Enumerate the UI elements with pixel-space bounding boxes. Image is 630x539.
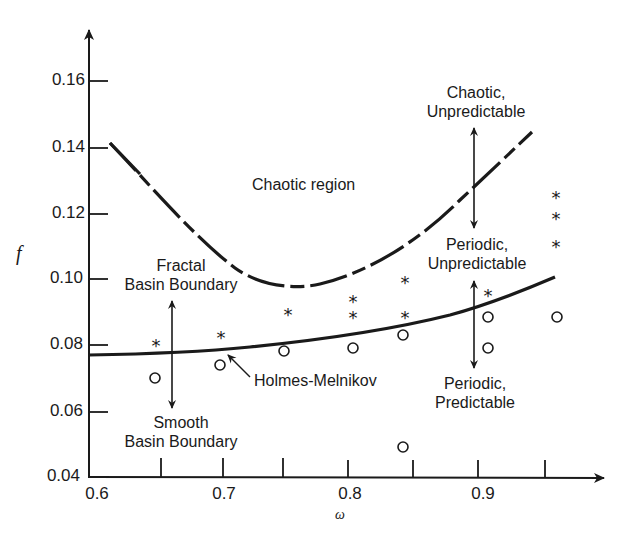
annotation-line: Periodic,: [426, 374, 524, 393]
x-tick-label: 0.6: [77, 484, 117, 504]
svg-text:*: *: [284, 304, 293, 325]
y-tick-label: 0.08: [23, 334, 83, 354]
x-axis-label: ω: [335, 507, 345, 523]
y-axis: [89, 30, 108, 478]
annotation-line: Smooth: [115, 413, 247, 432]
svg-text:*: *: [552, 208, 561, 229]
x-axis: [88, 458, 604, 478]
svg-text:*: *: [217, 327, 226, 348]
y-tick-label: 0.10: [23, 268, 83, 288]
svg-text:*: *: [152, 335, 161, 356]
annotation-line: Unpredictable: [420, 102, 532, 121]
annotation-fractal-basin-boundary: Fractal Basin Boundary: [115, 256, 247, 294]
svg-text:*: *: [552, 187, 561, 208]
svg-text:*: *: [401, 307, 410, 328]
svg-text:*: *: [484, 285, 493, 306]
x-tick-label: 0.9: [463, 484, 503, 504]
annotation-line: Unpredictable: [418, 254, 536, 273]
annotation-line: Fractal: [115, 256, 247, 275]
annotation-line: Predictable: [426, 393, 524, 412]
annotation-periodic-predictable: Periodic, Predictable: [426, 374, 524, 412]
annotation-line: Basin Boundary: [115, 432, 247, 451]
x-tick-label: 0.8: [330, 484, 370, 504]
x-tick-label: 0.7: [204, 484, 244, 504]
svg-text:*: *: [401, 272, 410, 293]
holmes-melnikov-pointer: [228, 355, 250, 377]
svg-text:*: *: [552, 236, 561, 257]
annotation-line: Chaotic,: [420, 83, 532, 102]
annotation-periodic-unpredictable: Periodic, Unpredictable: [418, 235, 536, 273]
annotation-line: Basin Boundary: [115, 275, 247, 294]
svg-text:*: *: [349, 307, 358, 328]
annotation-line: Periodic,: [418, 235, 536, 254]
y-tick-label: 0.04: [20, 466, 80, 486]
y-axis-label: f: [16, 242, 22, 265]
annotation-smooth-basin-boundary: Smooth Basin Boundary: [115, 413, 247, 451]
y-tick-label: 0.14: [25, 137, 85, 157]
y-tick-label: 0.16: [25, 70, 85, 90]
y-tick-label: 0.06: [23, 401, 83, 421]
annotation-chaotic-region: Chaotic region: [252, 175, 355, 194]
annotation-holmes-melnikov: Holmes-Melnikov: [254, 371, 377, 390]
y-tick-label: 0.12: [25, 203, 85, 223]
annotation-chaotic-unpredictable: Chaotic, Unpredictable: [420, 83, 532, 121]
